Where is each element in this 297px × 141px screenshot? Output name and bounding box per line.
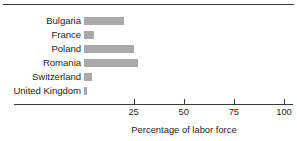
x-axis-title: Percentage of labor force — [83, 124, 285, 135]
bar-row: Poland — [0, 42, 297, 56]
x-axis-line — [14, 104, 293, 105]
plot-area: BulgariaFrancePolandRomaniaSwitzerlandUn… — [0, 10, 297, 102]
bar — [84, 17, 124, 26]
bar-row: Switzerland — [0, 70, 297, 84]
bar-row: Bulgaria — [0, 14, 297, 28]
x-axis-tick-label: 25 — [114, 106, 154, 117]
bar-track — [84, 31, 294, 40]
bar-row: France — [0, 28, 297, 42]
bar — [84, 45, 134, 54]
bar — [84, 59, 138, 68]
bar-category-label: Poland — [0, 42, 81, 56]
bar — [84, 87, 87, 96]
bar-chart-figure: BulgariaFrancePolandRomaniaSwitzerlandUn… — [0, 0, 297, 141]
bar-track — [84, 59, 294, 68]
bar-track — [84, 87, 294, 96]
bar — [84, 73, 92, 82]
bar — [84, 31, 94, 40]
bar-category-label: Bulgaria — [0, 14, 81, 28]
top-divider-rule — [3, 4, 294, 5]
bar-category-label: Romania — [0, 56, 81, 70]
x-axis-tick-label: 75 — [214, 106, 254, 117]
x-axis-tick-label: 50 — [164, 106, 204, 117]
bar-category-label: United Kingdom — [0, 84, 81, 98]
bar-category-label: Switzerland — [0, 70, 81, 84]
bar-track — [84, 73, 294, 82]
bar-track — [84, 45, 294, 54]
x-axis-tick-label: 100 — [264, 106, 297, 117]
bar-row: Romania — [0, 56, 297, 70]
bar-track — [84, 17, 294, 26]
bar-category-label: France — [0, 28, 81, 42]
bar-row: United Kingdom — [0, 84, 297, 98]
